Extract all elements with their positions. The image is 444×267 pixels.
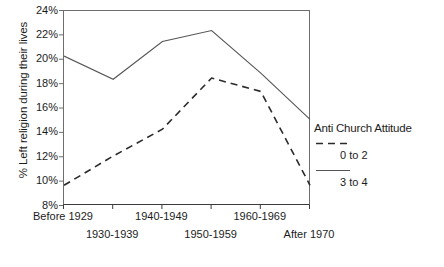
legend-label-0-to-2: 0 to 2 (340, 149, 444, 161)
legend-swatch-dashed (316, 139, 360, 148)
legend-label-3-to-4: 3 to 4 (340, 176, 444, 188)
x-tick-label: 1930-1939 (72, 228, 152, 240)
legend-entry-3-to-4: 3 to 4 (313, 166, 444, 188)
y-tick-label: 18% (24, 78, 58, 89)
legend: Anti Church Attitude 0 to 2 3 to 4 (313, 122, 444, 188)
x-tick-label: After 1970 (269, 228, 349, 240)
x-tick-label: 1960-1969 (220, 210, 300, 222)
y-tick-label: 24% (24, 5, 58, 16)
y-tick-label: 12% (24, 151, 58, 162)
x-tick-label: 1950-1959 (171, 228, 251, 240)
y-tick-label: 8% (24, 200, 58, 211)
legend-swatch-solid (316, 166, 360, 175)
y-axis-tick-labels: 8%10%12%14%16%18%20%22%24% (24, 0, 58, 267)
plot-area (63, 10, 310, 205)
y-tick-label: 16% (24, 102, 58, 113)
legend-title: Anti Church Attitude (314, 122, 444, 134)
y-tick-label: 20% (24, 53, 58, 64)
x-tick-label: 1940-1949 (121, 210, 201, 222)
x-tick-label: Before 1929 (23, 210, 103, 222)
y-tick-label: 14% (24, 126, 58, 137)
series-lines (64, 11, 311, 206)
line-chart: % Left religion during their lives 8%10%… (0, 0, 444, 267)
legend-entry-0-to-2: 0 to 2 (313, 139, 444, 161)
y-tick-label: 10% (24, 175, 58, 186)
y-tick-label: 22% (24, 29, 58, 40)
